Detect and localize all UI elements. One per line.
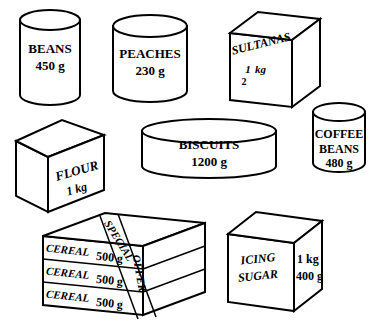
beans-weight-label: 450 g [35, 58, 65, 73]
peaches-weight-label: 230 g [135, 63, 165, 78]
packages-diagram: BEANS 450 g PEACHES 230 g SULTANAS 1 kg … [0, 0, 378, 322]
package-beans: BEANS 450 g [20, 10, 80, 105]
coffee-beans-name-label-2: BEANS [319, 142, 359, 156]
coffee-beans-top-ellipse [313, 103, 365, 121]
coffee-beans-weight-label: 480 g [326, 156, 353, 170]
cereal-weight-label-3: 500 g [95, 295, 123, 312]
sultanas-fraction-denominator: 2 [242, 76, 247, 87]
biscuits-name-label: BISCUITS [179, 137, 240, 152]
icing-sugar-side-weight-2: 400 g [296, 269, 323, 283]
package-coffee-beans: COFFEE BEANS 480 g [313, 103, 365, 172]
peaches-top-ellipse [113, 15, 187, 37]
biscuits-weight-label: 1200 g [191, 154, 227, 169]
package-icing-sugar: ICING SUGAR 1 kg 400 g [228, 212, 323, 311]
sultanas-fraction-numerator: 1 [245, 63, 251, 75]
beans-top-ellipse [20, 10, 80, 30]
package-sultanas: SULTANAS 1 kg 2 [230, 12, 320, 107]
beans-name-label: BEANS [28, 41, 71, 56]
figure-canvas: BEANS 450 g PEACHES 230 g SULTANAS 1 kg … [0, 0, 378, 322]
cereal-weight-label-2: 500 g [95, 272, 123, 289]
sultanas-weight-unit: kg [255, 63, 267, 75]
coffee-beans-name-label-1: COFFEE [315, 127, 364, 141]
package-peaches: PEACHES 230 g [113, 15, 187, 102]
peaches-name-label: PEACHES [119, 46, 180, 61]
package-biscuits: BISCUITS 1200 g [142, 119, 276, 178]
icing-sugar-side-weight-1: 1 kg [297, 252, 319, 266]
